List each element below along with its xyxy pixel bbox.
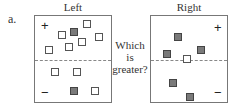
filled-square <box>174 33 182 41</box>
filled-square <box>197 46 205 54</box>
open-square <box>91 87 99 95</box>
plus-sign: + <box>41 19 49 32</box>
open-square <box>73 68 81 76</box>
question-line: is <box>110 51 150 63</box>
open-square <box>51 68 59 76</box>
filled-square <box>169 79 177 87</box>
right-panel: + − <box>150 15 228 103</box>
open-square <box>45 46 53 54</box>
open-square <box>95 33 103 41</box>
filled-square <box>70 87 78 95</box>
question-line: Which <box>110 39 150 51</box>
right-title: Right <box>150 1 228 13</box>
minus-sign: − <box>41 86 49 99</box>
filled-square <box>163 50 171 58</box>
minus-sign: − <box>214 86 222 99</box>
question-line: greater? <box>110 63 150 75</box>
open-square <box>78 38 86 46</box>
open-square <box>83 20 91 28</box>
divider <box>35 60 111 61</box>
left-panel: + − <box>34 15 112 103</box>
question-text: Which is greater? <box>110 39 150 75</box>
open-square <box>65 43 73 51</box>
open-square <box>58 31 66 39</box>
open-square <box>183 55 191 63</box>
item-label: a. <box>8 12 16 27</box>
filled-square <box>186 93 194 101</box>
plus-sign: + <box>214 21 222 34</box>
filled-square <box>70 28 78 36</box>
left-title: Left <box>34 1 112 13</box>
